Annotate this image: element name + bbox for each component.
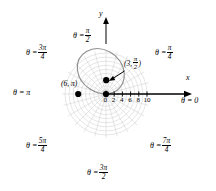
angle-label-5pi-over-4-fraction: 5π4 xyxy=(38,137,47,153)
angle-label-5pi-over-4-lhs: θ = xyxy=(26,141,37,150)
x-tick-label-0: 0 xyxy=(104,97,108,104)
angle-label-3pi-over-4-numerator: 3π xyxy=(38,44,47,52)
angle-label-5pi-over-4-numerator: 5π xyxy=(38,137,47,145)
point-3-pi-over-2-dot xyxy=(103,77,109,83)
angle-label-pi-over-4-fraction: π4 xyxy=(167,44,173,60)
x-tick-label-6: 6 xyxy=(128,97,132,104)
angle-label-pi-value: π xyxy=(26,88,30,97)
angle-label-pi-over-4: θ =π4 xyxy=(155,44,173,60)
angle-label-pi-over-4-lhs: θ = xyxy=(155,48,166,57)
angle-label-3pi-over-2-fraction: 3π2 xyxy=(99,164,108,180)
angle-label-pi-over-2-lhs: θ = xyxy=(73,31,84,40)
x-tick-label-2: 2 xyxy=(112,97,116,104)
y-axis xyxy=(103,17,109,44)
y-axis-label: y xyxy=(99,10,103,18)
point-label-3-pi-over-2: (3,π2) xyxy=(124,55,141,70)
angle-label-3pi-over-4-fraction: 3π4 xyxy=(38,44,47,60)
angle-label-3pi-over-4-lhs: θ = xyxy=(26,48,37,57)
angle-label-pi-over-2-numerator: π xyxy=(85,27,91,35)
angle-label-7pi-over-4-lhs: θ = xyxy=(150,141,161,150)
point-label-close-paren: ) xyxy=(139,59,142,68)
x-tick-label-10: 10 xyxy=(144,97,151,104)
point-label-6-pi: (6, π) xyxy=(61,80,77,88)
angle-label-3pi-over-4-denominator: 4 xyxy=(38,52,47,61)
point-label-angle-fraction: π2 xyxy=(133,55,138,70)
angle-label-3pi-over-2-numerator: 3π xyxy=(99,164,108,172)
angle-label-5pi-over-4-denominator: 4 xyxy=(38,145,47,154)
angle-label-pi-over-4-denominator: 4 xyxy=(167,52,173,61)
angle-label-0: θ = 0 xyxy=(181,97,198,105)
polar-curve xyxy=(77,49,124,94)
angle-label-pi-lhs: θ = xyxy=(13,88,24,97)
point-6-pi-dot xyxy=(75,91,81,97)
angle-label-pi-over-2: θ =π2 xyxy=(73,27,91,43)
polar-plot-figure: y x θ =π2 θ =3π4 θ =π4 θ = π θ = 0 θ =5π… xyxy=(0,0,216,191)
angle-label-3pi-over-2-lhs: θ = xyxy=(87,168,98,177)
angle-label-pi-over-4-numerator: π xyxy=(167,44,173,52)
x-tick-label-8: 8 xyxy=(136,97,140,104)
point-callout-arrow xyxy=(109,71,125,81)
point-label-angle-numerator: π xyxy=(133,55,138,62)
angle-label-5pi-over-4: θ =5π4 xyxy=(26,137,48,153)
angle-label-3pi-over-2: θ =3π2 xyxy=(87,164,109,180)
angle-label-pi-over-2-fraction: π2 xyxy=(85,27,91,43)
point-label-angle-denominator: 2 xyxy=(133,62,138,70)
angle-label-0-lhs: θ = xyxy=(181,96,192,105)
angle-label-7pi-over-4: θ =7π4 xyxy=(150,137,172,153)
angle-label-0-value: 0 xyxy=(194,96,198,105)
x-axis-label: x xyxy=(186,74,190,82)
angle-label-3pi-over-4: θ =3π4 xyxy=(26,44,48,60)
x-tick-label-4: 4 xyxy=(120,97,124,104)
angle-label-pi-over-2-denominator: 2 xyxy=(85,35,91,44)
angle-label-7pi-over-4-numerator: 7π xyxy=(162,137,171,145)
angle-label-7pi-over-4-fraction: 7π4 xyxy=(162,137,171,153)
angle-label-pi: θ = π xyxy=(13,89,30,97)
angle-label-7pi-over-4-denominator: 4 xyxy=(162,145,171,154)
angle-label-3pi-over-2-denominator: 2 xyxy=(99,172,108,181)
